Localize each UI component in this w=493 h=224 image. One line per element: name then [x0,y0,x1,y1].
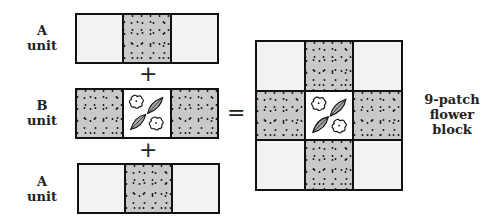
plus-sign-top: + [139,63,157,85]
b-unit-label: B unit [22,98,62,128]
label-word: unit [22,38,62,53]
block-dotted-square [354,92,401,140]
block-plain-square [257,141,304,189]
block-plain-square [257,42,304,90]
nine-patch-block [255,40,403,191]
flower-leaf-icon [124,90,169,137]
a-unit-label-top: A unit [22,23,62,53]
block-plain-square [354,141,401,189]
label-line-1: 9-patch [418,92,486,107]
a-unit-dotted-square [126,165,171,212]
label-word: unit [22,113,62,128]
label-letter: A [22,174,62,189]
b-unit-dotted-square [172,90,217,137]
plus-sign-bottom: + [139,139,157,161]
nine-patch-label: 9-patch flower block [418,92,486,137]
b-unit-flower-square [124,90,169,137]
a-unit-strip-top [75,13,219,64]
label-letter: B [22,98,62,113]
a-unit-plain-square [172,15,217,62]
block-plain-square [354,42,401,90]
block-dotted-square [306,42,353,90]
a-unit-dotted-square [124,15,169,62]
block-dotted-square [257,92,304,140]
label-line-3: block [418,122,486,137]
a-unit-plain-square [77,15,122,62]
equals-sign: = [227,102,245,124]
a-unit-strip-bottom [77,163,220,214]
label-word: unit [22,189,62,204]
block-dotted-square [306,141,353,189]
label-line-2: flower [418,107,486,122]
a-unit-plain-square [79,165,124,212]
a-unit-plain-square [173,165,218,212]
flower-leaf-icon [306,92,353,140]
label-letter: A [22,23,62,38]
block-flower-square [306,92,353,140]
b-unit-dotted-square [77,90,122,137]
a-unit-label-bottom: A unit [22,174,62,204]
b-unit-strip [75,88,219,139]
